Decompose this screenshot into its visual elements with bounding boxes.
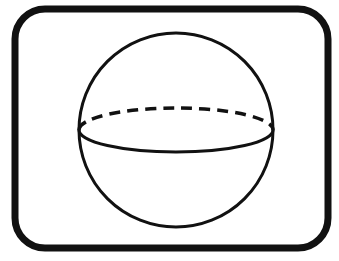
sphere-diagram: Sphere [0, 0, 339, 261]
frame-border [15, 9, 328, 248]
